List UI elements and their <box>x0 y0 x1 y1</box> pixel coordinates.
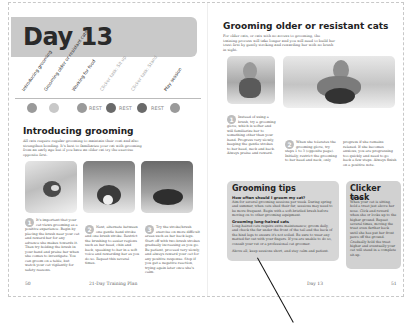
timeline-label: Working for food <box>71 59 97 92</box>
step-2-continued: progress if she remains relaxed. If she … <box>343 140 397 167</box>
step-text: progress if she remains relaxed. If she … <box>343 140 396 167</box>
right-page: Grooming older or resistant cats For old… <box>207 3 405 296</box>
step-1: 1 It's important that your cat views gro… <box>25 218 80 272</box>
timeline-label: Clicker task: Stand <box>130 55 158 92</box>
book-spread: Day 13 Introducing grooming Grooming old… <box>8 2 404 297</box>
photo-brushing-back-legs <box>141 161 193 213</box>
step-number: 2 <box>85 225 94 234</box>
step-2: 2 Next, alternate between one gentle han… <box>85 225 140 266</box>
tips-title: Grooming tips <box>232 184 296 193</box>
step-number: 3 <box>145 225 154 234</box>
left-page: Day 13 Introducing grooming Grooming old… <box>9 3 208 296</box>
step-number: 1 <box>25 218 34 227</box>
step-number: 2 <box>285 140 294 149</box>
timeline-line <box>15 98 201 99</box>
timeline-dot <box>77 103 87 113</box>
running-head: Day 13 <box>307 281 323 286</box>
section-intro: For older cats, or cats with no access t… <box>223 34 335 52</box>
timeline-dot <box>49 103 59 113</box>
timeline-dot <box>137 103 147 113</box>
timeline-label: Play session <box>163 67 183 92</box>
photo-woman-grooming-cat <box>283 56 395 108</box>
step-2: 2 When she tolerates the grooming glove,… <box>285 140 337 163</box>
tips-text: Long-haired cats require extra maintenan… <box>232 224 334 246</box>
timeline-dot <box>27 103 37 113</box>
section-heading: Grooming older or resistant cats <box>223 21 388 31</box>
tips-text: Above all, keep sessions short, and stay… <box>232 249 334 253</box>
photo-woman-with-cat <box>227 56 275 104</box>
grooming-tips-box: Grooming tips How often should I groom m… <box>227 181 339 261</box>
page-number: 50 <box>25 281 31 286</box>
photo-brushing-cat <box>83 161 135 213</box>
step-text: It's important that your cat views groom… <box>25 218 79 272</box>
page-number: 51 <box>391 281 397 286</box>
clicker-task-box: Clicker task Sit up When your cat is sit… <box>346 181 401 269</box>
step-text: Try the stroke/brush exercise on more di… <box>145 225 200 274</box>
section-heading: Introducing grooming <box>23 126 134 136</box>
rest-label: REST <box>119 105 132 111</box>
rest-label: REST <box>151 105 164 111</box>
day-banner: Day 13 <box>11 17 197 57</box>
step-1: 1 Instead of using a brush, try a groomi… <box>227 115 277 156</box>
timeline-label: Clicker task: Sit up <box>99 55 127 92</box>
day-title: Day 13 <box>23 23 113 51</box>
book-title: 21-Day Training Plan <box>89 281 137 286</box>
rest-label: REST <box>89 105 102 111</box>
timeline-dot <box>170 103 180 113</box>
tips-text: Aim for several grooming sessions per we… <box>232 200 334 218</box>
timeline-dot <box>106 103 116 113</box>
step-number: 1 <box>227 115 236 124</box>
photo-cat-sniffing-brush <box>25 161 77 213</box>
clicker-text: When your cat is sitting, hold a treat j… <box>350 200 397 257</box>
step-3: 3 Try the stroke/brush exercise on more … <box>145 225 200 275</box>
section-intro: All cats require regular grooming to mai… <box>23 139 148 157</box>
